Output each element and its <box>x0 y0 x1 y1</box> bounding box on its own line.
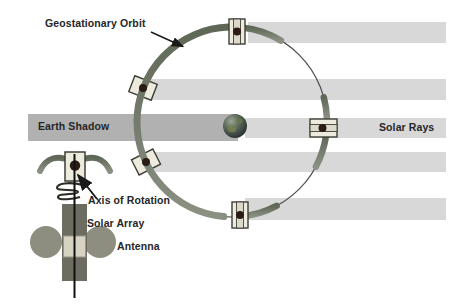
orbit-diagram <box>0 0 464 304</box>
earth-shadow-label: Earth Shadow <box>38 120 109 133</box>
satellite-top-hub-dot <box>233 28 241 36</box>
earth-continent <box>228 126 236 132</box>
inset-antenna-dish-left <box>30 226 62 258</box>
satellite-upper-left-hub-dot <box>139 84 147 92</box>
geostationary-orbit-arrow-icon <box>151 32 183 47</box>
spring-coil-icon <box>57 183 83 199</box>
earth-continent <box>236 118 242 123</box>
solar-rays-label: Solar Rays <box>379 121 434 134</box>
antenna-label: Antenna <box>117 240 160 253</box>
wing-right-upper-icon <box>324 97 327 118</box>
solar-ray-bar-2 <box>150 79 446 100</box>
earth-sphere <box>223 114 247 138</box>
inset-antenna-dish-right <box>84 226 116 258</box>
solar-ray-bar-4 <box>140 152 446 172</box>
satellite-lower-left-hub-dot <box>142 158 150 166</box>
earth-globe-icon <box>223 114 247 138</box>
diagram-canvas: Geostationary Orbit Earth Shadow Solar R… <box>0 0 464 304</box>
axis-of-rotation-label: Axis of Rotation <box>88 194 170 207</box>
satellite-bottom-hub-dot <box>236 211 244 219</box>
solar-array-label: Solar Array <box>87 217 144 230</box>
satellite-right-hub-dot <box>319 124 327 132</box>
geostationary-orbit-label: Geostationary Orbit <box>45 17 146 30</box>
